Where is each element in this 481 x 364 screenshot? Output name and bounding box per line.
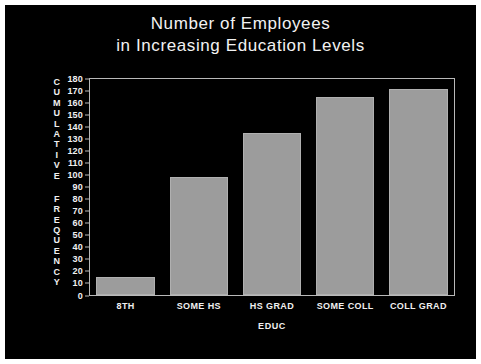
y-axis-tick-label: 20: [73, 266, 83, 276]
y-axis-label-char: Y: [54, 277, 60, 287]
y-axis-label-char: U: [54, 108, 61, 118]
y-axis-label-char: M: [53, 98, 61, 108]
bar: [316, 97, 375, 295]
y-axis-tick-label: 60: [73, 218, 83, 228]
y-axis-label-char: E: [54, 215, 60, 225]
y-axis-tick-label: 0: [78, 291, 83, 301]
y-axis-ticks: 0102030405060708090100110120130140150160…: [61, 78, 89, 296]
y-axis-tick-label: 70: [73, 206, 83, 216]
y-axis-tick-label: 170: [67, 86, 83, 96]
y-axis-tick-label: 30: [73, 254, 83, 264]
chart-canvas: Number of Employees in Increasing Educat…: [5, 5, 476, 359]
bar: [243, 133, 302, 295]
x-axis-tick-label: SOME HS: [177, 301, 221, 311]
y-axis-tick-label: 100: [67, 170, 83, 180]
y-axis-tick-label: 140: [67, 122, 83, 132]
bar: [96, 277, 155, 295]
y-axis-label-char: L: [54, 119, 60, 129]
y-axis-label-char: Q: [53, 225, 60, 235]
x-axis-tick-label: COLL GRAD: [390, 301, 447, 311]
x-axis-tick-label: HS GRAD: [250, 301, 294, 311]
bar: [170, 177, 229, 295]
x-axis-tick-labels: 8THSOME HSHS GRADSOME COLLCOLL GRAD: [89, 301, 455, 315]
y-axis-tick-label: 180: [67, 74, 83, 84]
y-axis-tick-label: 40: [73, 242, 83, 252]
chart-title-line-1: Number of Employees: [5, 13, 476, 35]
y-axis-label-char: V: [54, 160, 60, 170]
chart-title-line-2: in Increasing Education Levels: [5, 35, 476, 57]
y-axis-tick-label: 120: [67, 146, 83, 156]
y-axis-tick-label: 80: [73, 194, 83, 204]
y-axis-tick-label: 50: [73, 230, 83, 240]
bar: [389, 89, 448, 295]
x-axis-label: EDUC: [89, 321, 455, 331]
y-axis-label-char: U: [54, 87, 61, 97]
y-axis-label-char: N: [54, 256, 61, 266]
y-axis-label-char: C: [54, 267, 61, 277]
x-axis-tick-label: SOME COLL: [317, 301, 374, 311]
chart-title: Number of Employees in Increasing Educat…: [5, 13, 476, 57]
y-axis-tick-label: 110: [68, 158, 83, 168]
y-axis-label-char: U: [54, 235, 61, 245]
y-axis-label-char: F: [54, 194, 60, 204]
y-axis-tick-label: 150: [67, 110, 83, 120]
y-axis-tick-label: 90: [73, 182, 83, 192]
bar-series: [89, 78, 455, 296]
y-axis-label-char: C: [54, 77, 61, 87]
y-axis-label-char: R: [54, 204, 61, 214]
y-axis-tick-label: 160: [67, 98, 83, 108]
y-axis-label-char: E: [54, 171, 60, 181]
y-axis-tick-label: 130: [67, 134, 83, 144]
y-axis-tick-label: 10: [73, 278, 83, 288]
y-axis-label-char: E: [54, 246, 60, 256]
y-axis-label-char: I: [56, 150, 59, 160]
y-axis-label-char: T: [54, 139, 60, 149]
y-axis-label-char: A: [54, 129, 61, 139]
x-axis-tick-label: 8TH: [116, 301, 134, 311]
